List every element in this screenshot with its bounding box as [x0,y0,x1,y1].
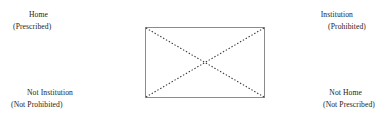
label-bottom-right-primary: Not Home [323,87,375,99]
label-top-left-secondary: (Prescribed) [13,21,51,33]
label-bottom-right-secondary: (Not Prescribed) [323,99,375,111]
label-bottom-left: Not Institution (Not Prohibited) [11,87,73,110]
label-top-right-secondary: (Prohibited) [321,21,366,33]
rectangle-figure [145,27,265,98]
label-top-left-primary: Home [13,9,51,21]
label-top-right-primary: Institution [321,9,366,21]
label-bottom-left-primary: Not Institution [11,87,73,99]
label-bottom-left-secondary: (Not Prohibited) [11,99,73,111]
label-top-right: Institution (Prohibited) [321,9,366,32]
label-top-left: Home (Prescribed) [13,9,51,32]
diagram-canvas: Home (Prescribed) Institution (Prohibite… [0,0,386,123]
diagonal-lines [145,27,265,98]
label-bottom-right: Not Home (Not Prescribed) [323,87,375,110]
